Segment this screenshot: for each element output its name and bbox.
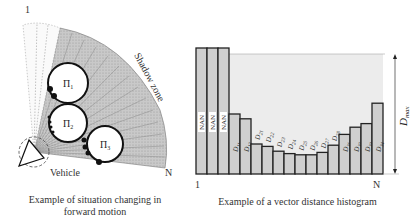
left-caption-line2: forward motion (5, 206, 185, 218)
bar-label: NAN (220, 115, 228, 130)
left-caption-line1: Example of situation changing in (5, 194, 185, 206)
histogram-bar (207, 48, 218, 174)
histogram-bar (306, 155, 317, 174)
histogram-bar (196, 48, 207, 174)
histogram-bar (251, 144, 262, 174)
vehicle-label: Vehicle (50, 167, 81, 178)
histogram-svg: NANNANNAND11D12D21D22D23D24D25D26D27D28D… (190, 0, 415, 223)
bar-label: NAN (198, 115, 206, 130)
histogram-bar (372, 103, 383, 174)
left-caption: Example of situation changing in forward… (5, 194, 185, 218)
dmax-label: Dmax (397, 105, 411, 127)
histogram-bar (317, 152, 328, 174)
ray-start-label: 1 (25, 4, 30, 15)
histogram-end-label: N (373, 179, 380, 190)
situation-diagram: Π1 Π2 Π3 1 N Vehicle Shadow zone Example… (0, 0, 195, 223)
histogram-diagram: NANNANNAND11D12D21D22D23D24D25D26D27D28D… (190, 0, 415, 223)
histogram-bar (218, 48, 229, 174)
histogram-bar (284, 154, 295, 174)
histogram-bar (273, 151, 284, 174)
histogram-bar (328, 145, 339, 174)
histogram-bar (339, 134, 350, 174)
right-caption: Example of a vector distance histogram (190, 196, 405, 208)
histogram-bar (262, 146, 273, 174)
ray-end-label: N (165, 167, 172, 178)
situation-diagram-svg: Π1 Π2 Π3 1 N Vehicle Shadow zone (0, 0, 195, 223)
histogram-start-label: 1 (195, 179, 200, 190)
bar-label: NAN (209, 115, 217, 130)
histogram-bar (295, 155, 306, 174)
